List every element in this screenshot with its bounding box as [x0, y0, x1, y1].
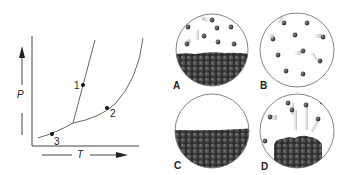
panel-a: A — [170, 12, 255, 95]
y-axis-label: P — [17, 89, 24, 100]
diagram-canvas: P T 1 2 3 — [0, 0, 350, 175]
panel-b-label: B — [260, 80, 267, 91]
point-1 — [81, 83, 85, 87]
gas-particles — [266, 15, 326, 77]
vaporization-curve — [73, 38, 143, 123]
point-3-label: 3 — [54, 136, 60, 147]
phase-diagram: P T 1 2 3 — [17, 36, 143, 160]
point-2-label: 2 — [110, 108, 116, 119]
panel-d-label: D — [261, 161, 268, 172]
point-1-label: 1 — [74, 80, 80, 91]
panel-b: B — [260, 13, 334, 91]
point-2 — [105, 106, 109, 110]
panel-c-label: C — [174, 160, 181, 171]
panel-d: D — [260, 94, 334, 172]
panel-c: C — [170, 94, 255, 171]
panel-a-label: A — [173, 80, 180, 91]
x-axis-arrow-icon — [42, 152, 128, 158]
x-axis-label: T — [77, 149, 84, 160]
